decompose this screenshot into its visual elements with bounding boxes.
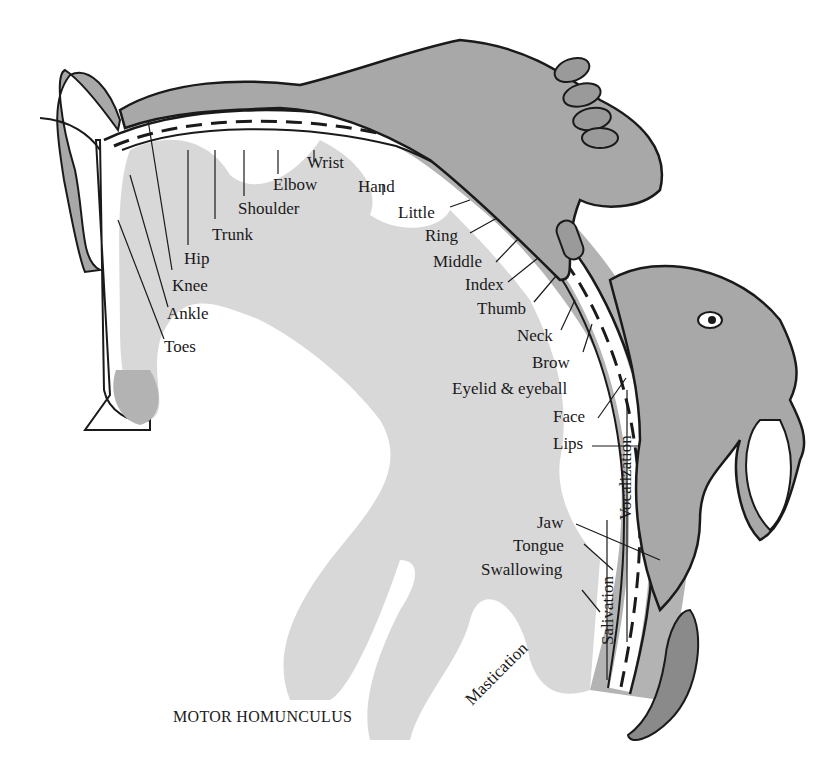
label-hip: Hip xyxy=(184,250,210,267)
label-lips: Lips xyxy=(553,435,583,452)
label-thumb: Thumb xyxy=(477,300,526,317)
label-ankle: Ankle xyxy=(167,305,209,322)
label-little: Little xyxy=(398,204,435,221)
label-jaw: Jaw xyxy=(537,514,563,531)
label-vocalization: Vocalization xyxy=(617,435,634,520)
label-index: Index xyxy=(465,276,504,293)
label-brow: Brow xyxy=(532,354,570,371)
label-middle: Middle xyxy=(433,253,482,270)
diagram-title: MOTOR HOMUNCULUS xyxy=(173,708,352,726)
label-face: Face xyxy=(553,408,585,425)
label-eyelid-eyeball: Eyelid & eyeball xyxy=(452,380,567,397)
label-ring: Ring xyxy=(425,227,458,244)
label-elbow: Elbow xyxy=(273,176,317,193)
label-knee: Knee xyxy=(172,277,208,294)
label-swallowing: Swallowing xyxy=(481,561,562,578)
label-toes: Toes xyxy=(164,338,196,355)
label-neck: Neck xyxy=(517,327,553,344)
label-tongue: Tongue xyxy=(513,537,564,554)
leg-line xyxy=(40,118,100,150)
homunculus-illustration xyxy=(0,0,836,781)
label-wrist: Wrist xyxy=(307,154,344,171)
label-hand: Hand xyxy=(358,178,395,195)
label-salivation: Salivation xyxy=(599,576,616,645)
label-trunk: Trunk xyxy=(212,226,253,243)
label-shoulder: Shoulder xyxy=(238,200,299,217)
leg-figure xyxy=(57,70,120,272)
motor-homunculus-diagram: Toes Ankle Knee Hip Trunk Shoulder Elbow… xyxy=(0,0,836,781)
